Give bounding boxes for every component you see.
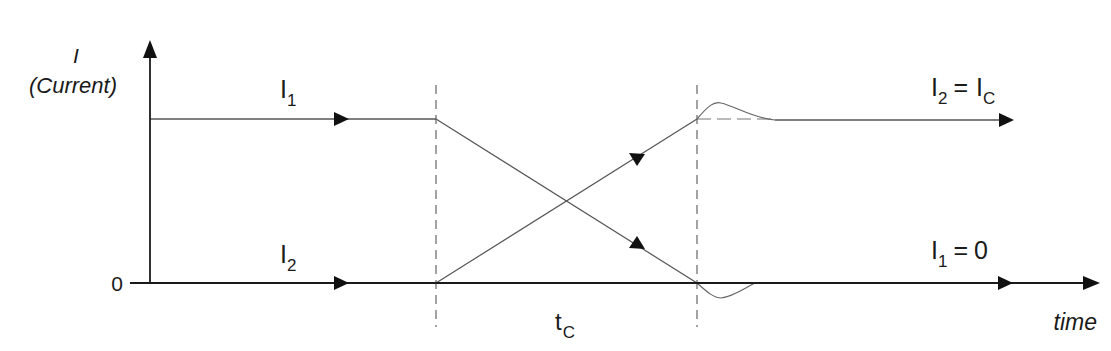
i1-direction-arrow-icon	[334, 112, 349, 126]
i2-rising-arrow-icon	[629, 153, 645, 166]
i2-overshoot-curve	[697, 103, 775, 120]
i2-initial-arrow-icon	[334, 276, 349, 290]
zero-tick-label: 0	[111, 272, 123, 295]
i2-final-arrow-icon	[999, 113, 1014, 127]
y-axis-symbol: I	[73, 44, 79, 67]
i2-equals-ic-label: I2=IC	[931, 73, 995, 108]
i1-zero-arrow-icon	[998, 276, 1013, 290]
i1-initial-label: I1	[280, 75, 296, 110]
commutation-diagram: I (Current) 0 time tC I1 I2 I2=IC I1=0	[0, 0, 1111, 351]
time-axis-arrow-icon	[1083, 276, 1100, 290]
i2-initial-label: I2	[280, 240, 296, 275]
i1-falling-arrow-icon	[629, 236, 645, 249]
x-axis-label: time	[1054, 309, 1097, 335]
i1-equals-zero-label: I1=0	[931, 236, 988, 271]
y-axis-label: (Current)	[29, 73, 117, 98]
i1-undershoot-curve	[697, 283, 755, 298]
commutation-interval-label: tC	[555, 308, 575, 342]
current-axis-arrow-icon	[143, 40, 157, 58]
